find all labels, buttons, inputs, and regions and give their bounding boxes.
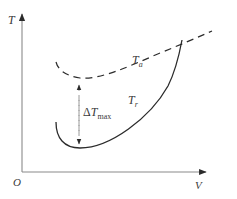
axes (22, 14, 206, 172)
recovery-curve-label: Tr (128, 93, 139, 109)
recovery-temperature-curve (56, 40, 182, 148)
ambient-curve-label: Ta (132, 53, 143, 69)
delta-t-max-label: ΔTmax (83, 105, 111, 121)
x-axis-label: V (195, 179, 203, 191)
origin-label: O (13, 176, 21, 188)
temperature-velocity-diagram: T O V Ta Tr ΔTmax (0, 0, 237, 199)
y-axis-label: T (8, 13, 16, 27)
